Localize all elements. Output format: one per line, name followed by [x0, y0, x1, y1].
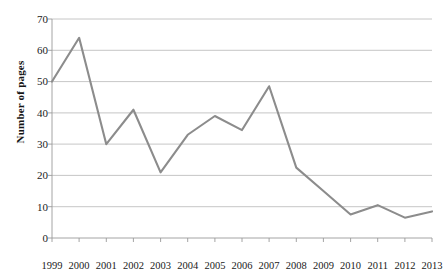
gridlines	[52, 19, 432, 207]
x-axis-tickmarks	[52, 238, 432, 242]
line-chart: Number of pages 70 60 50 40 30 20 10 0	[0, 0, 447, 278]
data-series-line	[52, 38, 432, 218]
plot-area	[0, 0, 447, 278]
x-tick-label: 2013	[412, 260, 447, 272]
y-axis-tickmarks	[48, 19, 52, 238]
